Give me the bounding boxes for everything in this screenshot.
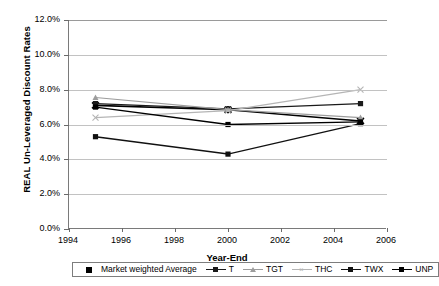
- x-axis-tick-label: 2004: [313, 235, 353, 245]
- series-line: [96, 90, 361, 118]
- y-axis-tick-label: 8.0%: [0, 84, 60, 94]
- x-axis-tick-label: 1998: [154, 235, 194, 245]
- legend-item-tgt[interactable]: TGT: [243, 265, 283, 274]
- x-axis-tick: [122, 228, 123, 232]
- legend-swatch-icon: [243, 265, 263, 274]
- x-axis-tick-label: 2006: [366, 235, 406, 245]
- y-axis-tick-label: 12.0%: [0, 14, 60, 24]
- legend-label: THC: [315, 265, 332, 274]
- y-gridline: [69, 55, 387, 56]
- y-axis-title: REAL Un-Leveraged Discount Rates: [21, 10, 32, 210]
- y-gridline: [69, 194, 387, 195]
- legend-item-thc[interactable]: ×THC: [292, 265, 332, 274]
- legend-label: TWX: [364, 265, 383, 274]
- x-axis-tick: [175, 228, 176, 232]
- data-point-marker: [93, 134, 98, 139]
- data-point-marker: [358, 101, 363, 106]
- legend-label: T: [229, 265, 234, 274]
- legend-swatch-icon: [206, 265, 226, 274]
- y-axis-tick: [64, 90, 69, 91]
- y-axis-tick: [64, 55, 69, 56]
- y-gridline: [69, 90, 387, 91]
- y-axis-tick-label: 10.0%: [0, 49, 60, 59]
- legend-label: TGT: [266, 265, 283, 274]
- chart-legend: Market weighted AverageTTGT×THCTWXUNP: [72, 262, 439, 277]
- legend-item-twx[interactable]: TWX: [341, 265, 383, 274]
- legend-swatch-icon: [341, 265, 361, 274]
- y-gridline: [69, 159, 387, 160]
- x-axis-tick: [69, 228, 70, 232]
- legend-item-market-weighted-average[interactable]: Market weighted Average: [78, 265, 197, 274]
- x-axis-tick: [387, 228, 388, 232]
- x-axis-tick-label: 1994: [48, 235, 88, 245]
- x-axis-tick: [334, 228, 335, 232]
- legend-swatch-icon: [78, 265, 98, 274]
- y-axis-tick-label: 2.0%: [0, 188, 60, 198]
- x-axis-tick-label: 2000: [207, 235, 247, 245]
- x-axis-tick-label: 1996: [101, 235, 141, 245]
- legend-swatch-icon: [392, 265, 412, 274]
- y-axis-tick: [64, 194, 69, 195]
- legend-swatch-icon: ×: [292, 265, 312, 274]
- plot-area: [68, 20, 386, 229]
- data-point-marker: [93, 104, 98, 109]
- x-axis-tick-label: 2002: [260, 235, 300, 245]
- legend-item-t[interactable]: T: [206, 265, 234, 274]
- y-axis-tick: [64, 20, 69, 21]
- y-axis-tick: [64, 159, 69, 160]
- y-axis-tick: [64, 125, 69, 126]
- series-line: [96, 124, 361, 154]
- y-axis-tick-label: 6.0%: [0, 119, 60, 129]
- y-gridline: [69, 20, 387, 21]
- legend-label: Market weighted Average: [101, 265, 197, 274]
- x-axis-tick: [281, 228, 282, 232]
- legend-label: UNP: [415, 265, 433, 274]
- y-axis-tick-label: 0.0%: [0, 223, 60, 233]
- y-axis-tick-label: 4.0%: [0, 153, 60, 163]
- x-axis-tick: [228, 228, 229, 232]
- data-point-marker: [225, 152, 230, 157]
- legend-item-unp[interactable]: UNP: [392, 265, 433, 274]
- y-gridline: [69, 125, 387, 126]
